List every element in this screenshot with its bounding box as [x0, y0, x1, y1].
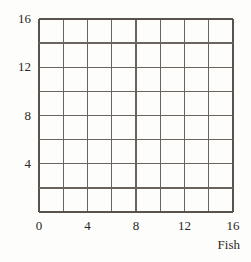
x-axis-tick-label: 16: [227, 219, 240, 232]
x-axis-tick-labels: 0481216: [0, 219, 251, 237]
plot-area: [39, 19, 233, 212]
y-axis-tick-label: 8: [25, 109, 32, 122]
x-axis-tick-label: 12: [178, 219, 191, 232]
x-axis-tick-label: 4: [84, 219, 91, 232]
y-axis-tick-label: 4: [25, 157, 32, 170]
y-axis-tick-label: 12: [18, 60, 31, 73]
x-axis-tick-label: 0: [36, 219, 43, 232]
y-axis-tick-label: 16: [18, 12, 31, 25]
x-axis-tick-label: 8: [133, 219, 140, 232]
grid-lines: [39, 19, 233, 212]
chart-figure: 481216 0481216 Fish: [0, 0, 251, 262]
x-axis-title: Fish: [0, 238, 240, 251]
